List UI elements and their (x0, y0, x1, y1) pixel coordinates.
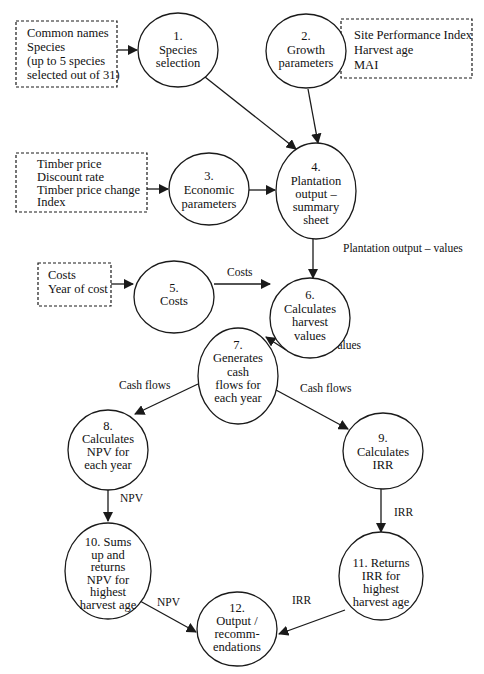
svg-text:each year: each year (214, 391, 262, 405)
node-11-returns-irr-highest-harvest-age: 11. Returns IRR for highest harvest age (339, 532, 423, 620)
input-box-growth: Site Performance Index Harvest age MAI (341, 19, 473, 78)
svg-text:flows for: flows for (215, 378, 261, 392)
svg-text:Calculates: Calculates (82, 432, 134, 446)
svg-text:12.: 12. (229, 601, 245, 615)
node-1-species-selection: 1. Species selection (138, 13, 218, 87)
edge-label-cash-flows-right: Cash flows (300, 382, 352, 394)
edge-label-npv-lower: NPV (157, 596, 181, 608)
svg-text:Economic: Economic (184, 183, 235, 197)
svg-text:harvest: harvest (292, 315, 329, 329)
svg-text:IRR for: IRR for (362, 569, 401, 583)
svg-text:endations: endations (213, 640, 261, 654)
input-box-economic: Timber price Discount rate Timber price … (16, 153, 147, 212)
svg-text:Plantation: Plantation (291, 174, 342, 188)
svg-text:7.: 7. (233, 338, 242, 352)
node-8-calculates-npv: 8. Calculates NPV for each year (68, 410, 148, 490)
svg-text:sheet: sheet (303, 213, 329, 227)
svg-text:Calculates: Calculates (284, 302, 336, 316)
svg-text:selected out of 31): selected out of 31) (27, 68, 120, 82)
svg-text:Costs: Costs (48, 268, 76, 282)
svg-text:(up to 5 species: (up to 5 species (27, 54, 105, 68)
edge-cash-flows-to-irr (276, 390, 348, 429)
edge-label-costs: Costs (227, 266, 253, 278)
svg-text:9.: 9. (378, 431, 387, 445)
svg-text:highest: highest (90, 585, 127, 599)
svg-text:parameters: parameters (279, 56, 334, 70)
svg-text:Site Performance Index: Site Performance Index (354, 28, 473, 42)
edge-label-plantation-output-values: Plantation output – values (343, 242, 463, 255)
svg-text:6.: 6. (305, 288, 314, 302)
edge-label-irr-upper: IRR (394, 506, 414, 518)
node-5-costs: 5. Costs (134, 261, 214, 333)
node-7-generates-cash-flows: 7. Generates cash flows for each year (198, 328, 278, 424)
edge-label-npv-upper: NPV (120, 492, 144, 504)
input-box-species: Common names Species (up to 5 species se… (16, 21, 120, 87)
svg-text:Timber price: Timber price (37, 157, 102, 171)
svg-text:Index: Index (37, 195, 66, 209)
svg-text:Growth: Growth (287, 43, 326, 57)
svg-text:3.: 3. (204, 169, 213, 183)
node-2-growth-parameters: 2. Growth parameters (266, 14, 346, 88)
svg-text:11. Returns: 11. Returns (352, 556, 409, 570)
svg-text:8.: 8. (103, 419, 112, 433)
svg-text:2.: 2. (301, 29, 310, 43)
svg-text:NPV for: NPV for (87, 445, 130, 459)
input-box-costs: Costs Year of cost (38, 263, 111, 306)
svg-text:Output /: Output / (216, 614, 258, 628)
svg-text:summary: summary (293, 200, 340, 214)
edge-return-irr-to-output (279, 610, 345, 634)
edge-label-cash-flows-left: Cash flows (119, 379, 171, 391)
svg-text:10. Sums: 10. Sums (85, 535, 132, 549)
svg-text:4.: 4. (311, 160, 320, 174)
svg-text:values: values (294, 329, 326, 343)
svg-text:harvest age: harvest age (353, 595, 410, 609)
svg-text:highest: highest (363, 582, 400, 596)
svg-text:Costs: Costs (160, 294, 188, 308)
svg-text:5.: 5. (169, 281, 178, 295)
svg-text:Species: Species (27, 40, 65, 54)
svg-text:each year: each year (84, 458, 132, 472)
svg-text:Generates: Generates (213, 351, 263, 365)
svg-text:Discount rate: Discount rate (37, 170, 104, 184)
svg-text:returns: returns (91, 560, 126, 574)
flowchart-canvas: Plantation output – values Costs Harvest… (0, 0, 484, 674)
svg-text:Year of cost: Year of cost (48, 282, 108, 296)
svg-text:Calculates: Calculates (357, 445, 409, 459)
node-12-output-recommendations: 12. Output / recomm- endations (197, 592, 277, 666)
node-4-plantation-output-summary-sheet: 4. Plantation output – summary sheet (276, 143, 356, 239)
edge-growth-parameters-to-plantation-output (308, 89, 318, 143)
svg-text:MAI: MAI (354, 58, 378, 72)
svg-text:harvest age: harvest age (80, 598, 137, 612)
node-9-calculates-irr: 9. Calculates IRR (343, 413, 423, 489)
node-10-sums-npv-highest-harvest-age: 10. Sums up and returns NPV for highest … (65, 523, 151, 619)
svg-text:Harvest age: Harvest age (354, 43, 414, 57)
svg-text:Common names: Common names (27, 26, 109, 40)
svg-text:1.: 1. (173, 29, 182, 43)
svg-text:selection: selection (156, 56, 201, 70)
edge-species-selection-to-plantation-output (205, 77, 296, 149)
svg-text:cash: cash (227, 365, 250, 379)
node-6-calculates-harvest-values: 6. Calculates harvest values (270, 278, 350, 358)
svg-text:recomm-: recomm- (214, 627, 259, 641)
svg-text:output –: output – (295, 187, 337, 201)
edge-label-irr-lower: IRR (292, 594, 312, 606)
svg-text:IRR: IRR (373, 458, 395, 472)
svg-text:parameters: parameters (182, 197, 237, 211)
svg-text:Species: Species (159, 43, 197, 57)
node-3-economic-parameters: 3. Economic parameters (169, 153, 249, 225)
